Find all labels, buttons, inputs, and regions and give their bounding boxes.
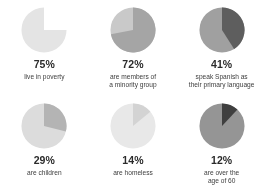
stat-cell-homeless: 14% are homeless [89, 96, 178, 192]
pie-chart-children [21, 103, 67, 149]
pie-chart-over-60 [199, 103, 245, 149]
caption-line: their primary language [179, 81, 265, 89]
stat-caption-over-60: are over the age of 60 [179, 169, 265, 185]
caption-line: a minority group [90, 81, 176, 89]
pie-chart-homeless [110, 103, 156, 149]
stat-percent-poverty: 75% [34, 59, 55, 70]
stat-cell-spanish: 41% speak Spanish as their primary langu… [177, 0, 266, 96]
caption-line: live in poverty [1, 73, 87, 81]
pie-chart-minority [110, 7, 156, 53]
stat-caption-minority: are members of a minority group [90, 73, 176, 89]
stat-row-top: 75% live in poverty 72% are members of a… [0, 0, 266, 96]
stat-cell-over-60: 12% are over the age of 60 [177, 96, 266, 192]
stat-percent-children: 29% [34, 155, 55, 166]
statistics-infographic: 75% live in poverty 72% are members of a… [0, 0, 266, 192]
stat-cell-children: 29% are children [0, 96, 89, 192]
stat-percent-over-60: 12% [211, 155, 232, 166]
caption-line: are children [1, 169, 87, 177]
caption-line: speak Spanish as [179, 73, 265, 81]
pie-chart-poverty [21, 7, 67, 53]
stat-cell-minority: 72% are members of a minority group [89, 0, 178, 96]
pie-chart-spanish [199, 7, 245, 53]
pie-svg-spanish [199, 7, 245, 53]
caption-line: are over the [179, 169, 265, 177]
stat-row-bottom: 29% are children 14% are homeless [0, 96, 266, 192]
caption-line: are homeless [90, 169, 176, 177]
pie-svg-over-60 [199, 103, 245, 149]
stat-percent-minority: 72% [122, 59, 143, 70]
caption-line: are members of [90, 73, 176, 81]
stat-caption-poverty: live in poverty [1, 73, 87, 81]
stat-caption-children: are children [1, 169, 87, 177]
stat-cell-poverty: 75% live in poverty [0, 0, 89, 96]
pie-svg-children [21, 103, 67, 149]
pie-svg-poverty [21, 7, 67, 53]
pie-svg-homeless [110, 103, 156, 149]
caption-line: age of 60 [179, 177, 265, 185]
stat-caption-homeless: are homeless [90, 169, 176, 177]
stat-caption-spanish: speak Spanish as their primary language [179, 73, 265, 89]
stat-percent-spanish: 41% [211, 59, 232, 70]
pie-svg-minority [110, 7, 156, 53]
stat-percent-homeless: 14% [122, 155, 143, 166]
